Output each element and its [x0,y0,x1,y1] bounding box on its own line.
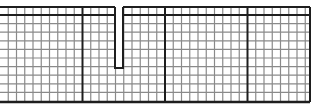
minor-grid-lines [0,7,310,102]
grid-strip [0,0,320,111]
notch-cutout [114,0,124,68]
grid-diagram: Grid strip with notch [0,0,320,111]
notch-fill [115,0,123,68]
